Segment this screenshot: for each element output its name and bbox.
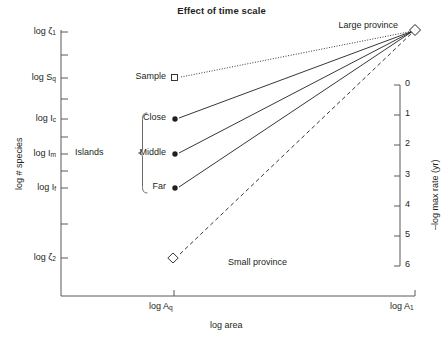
y-tick-label-zeta2-sub: 2	[52, 255, 56, 262]
y2-tick-label-5: 5	[405, 230, 410, 239]
x-tick-label-a1-main: log A	[390, 301, 410, 311]
y-tick-label-ic: log Ic	[8, 114, 56, 124]
x-tick-label-aq-sub: q	[169, 304, 173, 311]
y2-axis-title: –log max rate (yr)	[430, 159, 440, 230]
y-tick-label-zeta2: log ζ2	[8, 253, 56, 263]
series-line-middle	[179, 31, 413, 153]
y-tick-label-im-sub: m	[51, 151, 57, 158]
series-line-small-province	[180, 32, 413, 254]
marker-small-province-open-diamond	[168, 253, 178, 263]
marker-middle-filled-circle	[172, 151, 177, 156]
y2-tick-label-4: 4	[405, 200, 410, 209]
series-line-close	[179, 31, 413, 118]
y-tick-label-if-sub: f	[54, 185, 56, 192]
marker-close-filled-circle	[172, 116, 177, 121]
x-axis-ticks	[174, 290, 415, 296]
y-tick-label-zeta2-main: log ζ	[34, 252, 52, 262]
y-tick-label-ic-sub: c	[53, 116, 56, 123]
y2-tick-label-6: 6	[405, 260, 410, 269]
y-tick-label-im-main: log I	[33, 148, 50, 158]
y-tick-label-sq: log Sq	[8, 73, 56, 83]
marker-large-province-open-diamond	[410, 25, 421, 36]
x-tick-label-a1-sub: 1	[410, 304, 414, 311]
annotation-far: Far	[110, 182, 166, 191]
y2-tick-label-3: 3	[405, 170, 410, 179]
x-tick-label-aq: log Aq	[149, 302, 173, 312]
marker-sample-open-square	[172, 75, 178, 81]
annotation-islands: Islands	[75, 148, 104, 157]
annotation-small-province: Small province	[228, 258, 287, 267]
marker-far-filled-circle	[172, 185, 177, 190]
y-tick-label-zeta1: log ζ1	[8, 27, 56, 37]
y-axis-title: log # species	[14, 137, 24, 190]
x-axis-title: log area	[210, 320, 243, 330]
chart-plot-area	[0, 0, 443, 341]
y-tick-label-ic-main: log I	[36, 113, 53, 123]
annotation-close: Close	[110, 113, 166, 122]
y2-tick-label-0: 0	[405, 79, 410, 88]
y2-axis-ticks	[394, 85, 400, 266]
annotation-middle: Middle	[110, 148, 166, 157]
annotation-large-province: Large province	[330, 21, 398, 30]
y2-tick-label-2: 2	[405, 139, 410, 148]
y-tick-label-if-main: log I	[37, 182, 54, 192]
x-tick-label-aq-main: log A	[149, 301, 169, 311]
y-tick-label-sq-main: log S	[32, 72, 53, 82]
y-tick-label-sq-sub: q	[52, 75, 56, 82]
x-tick-label-a1: log A1	[390, 302, 414, 312]
y-axis-ticks	[61, 32, 68, 258]
annotation-sample: Sample	[110, 72, 166, 81]
y2-tick-label-1: 1	[405, 109, 410, 118]
y-tick-label-zeta1-sub: 1	[52, 29, 56, 36]
y-tick-label-zeta1-main: log ζ	[34, 26, 52, 36]
